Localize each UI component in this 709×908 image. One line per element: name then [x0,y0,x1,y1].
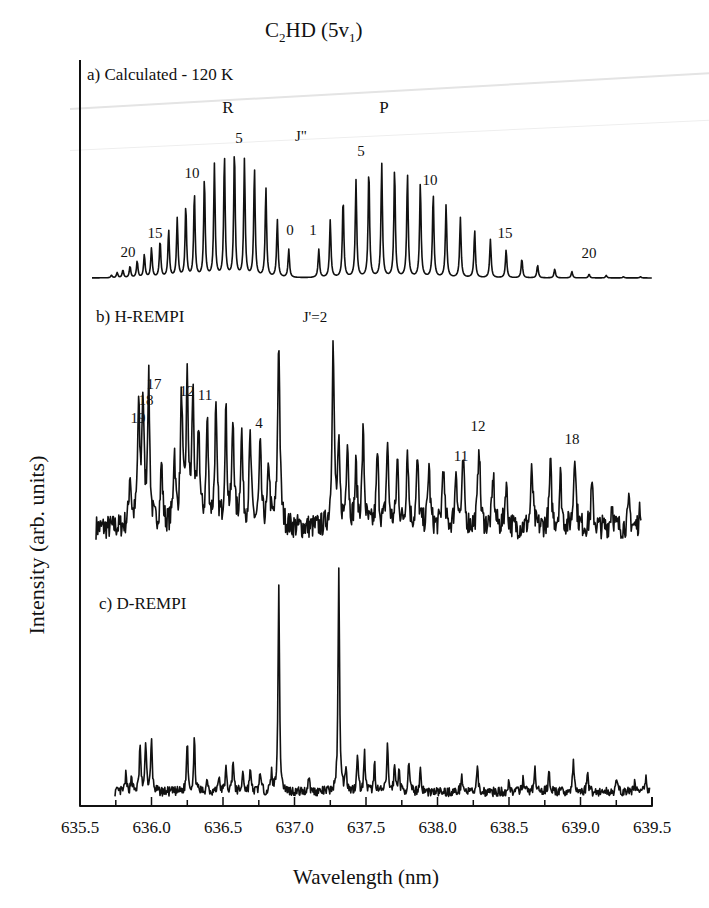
x-axis-label: Wavelength (nm) [293,865,439,890]
y-axis-label: Intensity (arb. units) [24,455,50,634]
x-axis-ticks [80,797,652,806]
x-tick-label: 637.5 [347,818,385,838]
annotation-label: 5 [235,130,243,147]
x-tick-label: 638.5 [490,818,528,838]
x-tick-label: 639.0 [561,818,599,838]
x-tick-label: 637.0 [275,818,313,838]
annotation-label: 15 [498,225,513,242]
x-tick-label: 635.5 [61,818,99,838]
annotation-label: 11 [198,387,212,404]
j-prime-2-label: J'=2 [303,309,328,326]
panel-b-label: b) H-REMPI [96,307,184,327]
annotation-label: 10 [423,172,438,189]
annotation-label: 18 [565,431,580,448]
p-branch-label: P [379,98,388,118]
x-tick-label: 636.0 [132,818,170,838]
annotation-label: 12 [471,418,486,435]
annotation-label: 19 [131,410,146,427]
panel-c-label: c) D-REMPI [99,594,186,614]
panel-b-h-rempi-spectrum [96,341,641,540]
panel-a-calculated-spectrum [92,157,652,278]
annotation-label: 1 [309,222,317,239]
annotation-label: 12 [180,383,195,400]
x-tick-label: 636.5 [204,818,242,838]
panel-a-label: a) Calculated - 120 K [87,65,233,85]
annotation-label: 20 [121,244,136,261]
x-tick-label: 638.0 [418,818,456,838]
annotation-label: 18 [139,392,154,409]
annotation-label: 10 [185,165,200,182]
j-double-prime-label: J" [295,128,307,145]
annotation-label: 20 [582,245,597,262]
r-branch-label: R [222,98,233,118]
panel-c-d-rempi-spectrum [115,568,650,796]
annotation-label: 5 [357,143,365,160]
annotation-label: 15 [148,225,163,242]
annotation-label: 0 [286,222,294,239]
annotation-label: 11 [454,448,468,465]
annotation-label: 4 [255,415,263,432]
x-tick-label: 639.5 [633,818,671,838]
annotation-label: 17 [147,376,162,393]
